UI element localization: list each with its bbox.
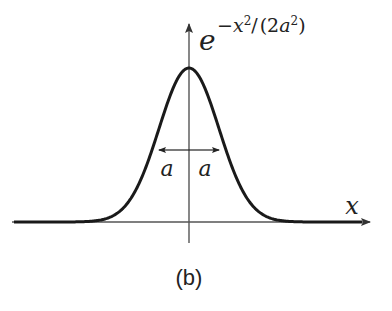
svg-text:e: e: [199, 24, 216, 57]
function-label: e −x2/(2a2): [199, 14, 306, 57]
gaussian-curve: [14, 68, 362, 222]
width-label-left: a: [160, 156, 173, 181]
width-label-right: a: [198, 156, 211, 181]
figure-caption: (b): [176, 265, 203, 290]
gaussian-diagram: a a e −x2/(2a2) x (b): [0, 0, 392, 311]
x-axis-label: x: [345, 192, 359, 220]
svg-text:−x2/(2a2): −x2/(2a2): [217, 14, 306, 36]
